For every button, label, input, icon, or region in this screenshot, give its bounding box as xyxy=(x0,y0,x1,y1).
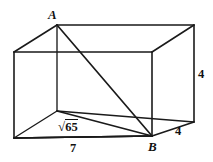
vertex-label-b: B xyxy=(148,140,157,153)
measure-label-base-diagonal: √65 xyxy=(58,120,78,134)
vertex-label-a: A xyxy=(48,8,57,21)
edge-depth-top-right xyxy=(152,25,194,52)
edge-depth-bottom-left xyxy=(14,111,57,138)
base-diagonal-sqrt65 xyxy=(14,136,152,138)
geometry-figure: A B 4 4 7 √65 xyxy=(0,0,213,162)
edge-depth-top-left xyxy=(14,25,57,52)
box-diagram-svg xyxy=(0,0,213,162)
measure-label-height-right: 4 xyxy=(198,68,204,81)
measure-label-width-bottom: 7 xyxy=(70,142,76,155)
measure-label-depth-bottom-right: 4 xyxy=(175,125,181,138)
radicand-value: 65 xyxy=(65,119,79,134)
edge-depth-bottom-right xyxy=(152,122,194,136)
